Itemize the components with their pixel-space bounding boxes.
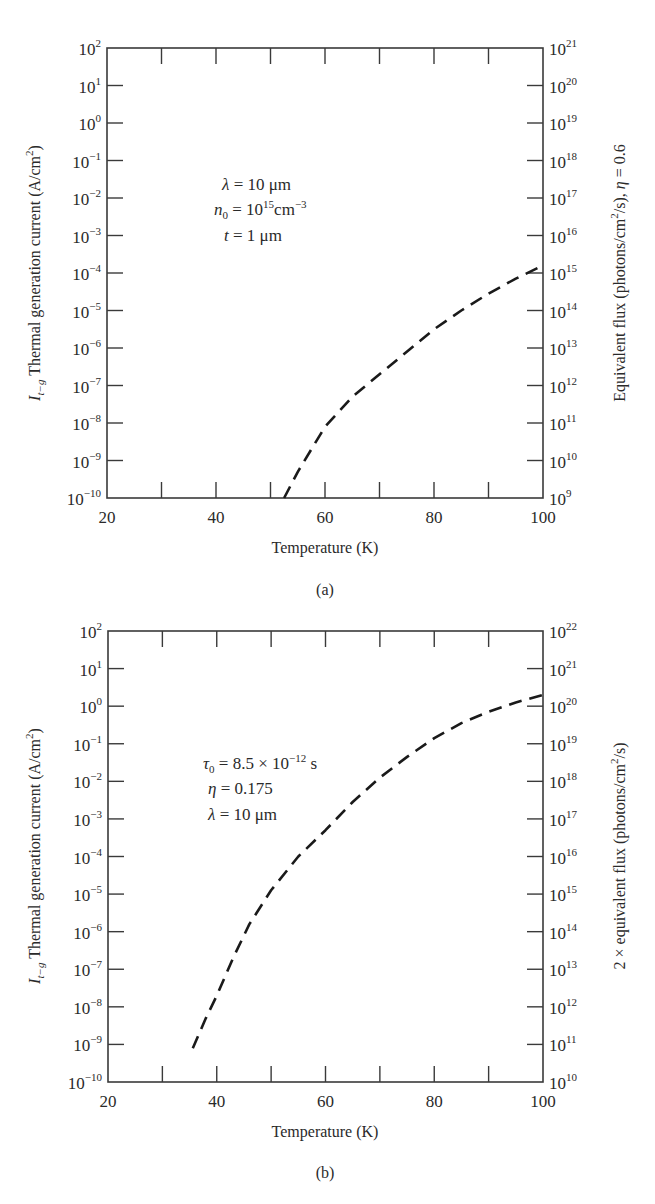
x-tick-label: 20 — [99, 508, 116, 527]
y-tick-label: 101 — [80, 658, 103, 680]
y-right-tick-label: 109 — [549, 487, 572, 509]
y-right-tick-label: 1017 — [549, 808, 578, 830]
chart-a: 2040608010010210211011020100101910−11018… — [67, 37, 578, 527]
plot-frame — [107, 48, 543, 498]
y-tick-label: 10−9 — [72, 450, 101, 472]
y-right-tick-label: 1021 — [549, 658, 577, 680]
x-tick-label: 20 — [100, 1092, 117, 1111]
plot-frame — [108, 631, 543, 1082]
annotation-efficiency: η = 0.175 — [208, 779, 273, 798]
y-tick-label: 10−1 — [73, 733, 102, 755]
y-tick-label: 10−2 — [73, 770, 102, 792]
chart-b-y-axis-title: It−g Thermal generation current (A/cm2) — [23, 728, 46, 985]
chart-a-annotations: λ = 10 μm n0 = 1015cm−3 t = 1 μm — [214, 175, 307, 245]
y-tick-label: 10−2 — [72, 187, 101, 209]
y-right-tick-label: 1010 — [549, 450, 578, 472]
y-tick-label: 10−6 — [73, 921, 102, 943]
x-tick-label: 80 — [426, 1092, 443, 1111]
annotation-thickness: t = 1 μm — [224, 226, 282, 245]
y-right-tick-label: 1016 — [549, 846, 578, 868]
annotation-lifetime: τ0 = 8.5 × 10−12 s — [203, 752, 317, 775]
y-right-tick-label: 1011 — [549, 412, 577, 434]
y-right-tick-label: 1015 — [549, 883, 578, 905]
y-tick-label: 10−8 — [72, 412, 101, 434]
x-tick-label: 80 — [426, 508, 443, 527]
annotation-wavelength: λ = 10 μm — [221, 175, 291, 194]
y-right-tick-label: 1014 — [549, 300, 578, 322]
y-right-tick-label: 1019 — [549, 733, 578, 755]
y-tick-label: 10−10 — [67, 487, 102, 509]
y-right-tick-label: 1014 — [549, 921, 578, 943]
y-right-tick-label: 1020 — [549, 75, 578, 97]
annotation-carrier-density: n0 = 1015cm−3 — [214, 198, 307, 221]
y-right-tick-label: 1020 — [549, 695, 578, 717]
y-tick-label: 10−6 — [72, 337, 101, 359]
y-tick-label: 102 — [80, 620, 103, 642]
chart-b: 2040608010010210221011021100102010−11019… — [68, 620, 578, 1111]
chart-a-y-axis-title: It−g Thermal generation current (A/cm2) — [23, 145, 46, 402]
y-tick-label: 10−4 — [73, 846, 102, 868]
y-tick-label: 10−1 — [72, 150, 101, 172]
y-tick-label: 102 — [79, 37, 102, 59]
y-tick-label: 10−10 — [68, 1071, 103, 1093]
y-right-tick-label: 1018 — [549, 150, 578, 172]
y-tick-label: 101 — [79, 75, 102, 97]
x-tick-label: 60 — [317, 1092, 334, 1111]
y-tick-label: 10−3 — [72, 225, 101, 247]
annotation-wavelength: λ = 10 μm — [207, 805, 277, 824]
y-tick-label: 10−8 — [73, 996, 102, 1018]
y-tick-label: 10−5 — [72, 300, 101, 322]
y-right-tick-label: 1012 — [549, 375, 577, 397]
chart-b-x-axis-title: Temperature (K) — [272, 1123, 379, 1141]
chart-b-caption: (b) — [316, 1164, 335, 1182]
y-tick-label: 100 — [80, 695, 103, 717]
chart-a-caption: (a) — [316, 581, 334, 599]
y-right-tick-label: 1016 — [549, 225, 578, 247]
y-right-tick-label: 1013 — [549, 958, 578, 980]
y-tick-label: 10−3 — [73, 808, 102, 830]
y-right-tick-label: 1019 — [549, 112, 578, 134]
y-tick-label: 10−7 — [72, 375, 101, 397]
x-tick-label: 100 — [530, 1092, 556, 1111]
chart-b-right-axis-title: 2 × equivalent flux (photons/cm2/s) — [608, 743, 629, 970]
y-right-tick-label: 1011 — [549, 1033, 577, 1055]
chart-b-annotations: τ0 = 8.5 × 10−12 s η = 0.175 λ = 10 μm — [203, 752, 317, 824]
y-right-tick-label: 1013 — [549, 337, 578, 359]
y-tick-label: 10−5 — [73, 883, 102, 905]
y-right-tick-label: 1012 — [549, 996, 577, 1018]
figure: 2040608010010210211011020100101910−11018… — [0, 0, 655, 1204]
chart-a-x-axis-title: Temperature (K) — [272, 539, 379, 557]
y-tick-label: 10−7 — [73, 958, 102, 980]
x-tick-label: 40 — [208, 508, 225, 527]
y-tick-label: 100 — [79, 112, 102, 134]
chart-a-right-axis-title: Equivalent flux (photons/cm2/s), η = 0.6 — [608, 144, 629, 402]
x-tick-label: 60 — [317, 508, 334, 527]
y-right-tick-label: 1017 — [549, 187, 578, 209]
data-curve-dashed — [284, 266, 543, 499]
y-right-tick-label: 1021 — [549, 37, 577, 59]
y-tick-label: 10−4 — [72, 262, 101, 284]
x-tick-label: 100 — [530, 508, 556, 527]
y-right-tick-label: 1022 — [549, 620, 577, 642]
y-right-tick-label: 1015 — [549, 262, 578, 284]
data-curve-dashed — [193, 695, 543, 1048]
x-tick-label: 40 — [208, 1092, 225, 1111]
y-right-tick-label: 1010 — [549, 1071, 578, 1093]
y-right-tick-label: 1018 — [549, 770, 578, 792]
y-tick-label: 10−9 — [73, 1033, 102, 1055]
